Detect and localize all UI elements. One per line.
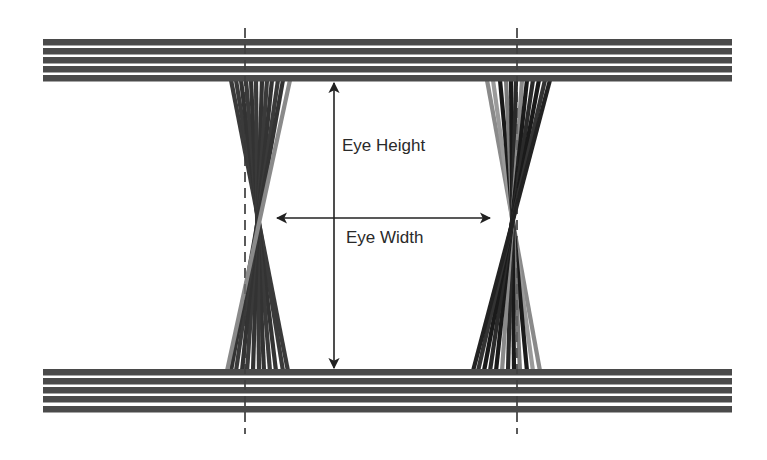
rail-trace <box>43 75 732 82</box>
rail-trace <box>43 378 732 385</box>
rail-trace <box>43 369 732 376</box>
rail-trace <box>43 48 732 55</box>
rail-trace <box>43 396 732 403</box>
eye-height-label: Eye Height <box>342 136 425 155</box>
rail-trace <box>43 406 732 413</box>
rail-trace <box>43 66 732 73</box>
rail-trace <box>43 57 732 64</box>
eye-width-label: Eye Width <box>346 228 423 247</box>
rail-trace <box>43 39 732 46</box>
rail-trace <box>43 387 732 394</box>
eye-diagram: Eye Height Eye Width <box>0 0 767 460</box>
top-logic-level-rail <box>43 39 732 82</box>
